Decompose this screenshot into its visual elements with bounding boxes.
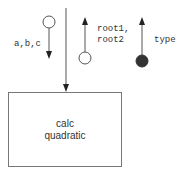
- couple-label-type: type: [154, 35, 176, 45]
- arrow-down-icon: [46, 51, 52, 59]
- couple-label-root2: root2: [97, 35, 124, 45]
- data-couple-input: a,b,c: [14, 16, 55, 59]
- module-box-calc-quadratic: calc quadratic: [9, 93, 122, 167]
- module-label-line1: calc: [56, 118, 74, 129]
- control-couple-type: type: [136, 17, 176, 67]
- invocation-connector: [63, 8, 69, 92]
- module-label-line2: quadratic: [44, 130, 85, 141]
- data-couple-roots: root1, root2: [79, 17, 129, 64]
- structure-chart-diagram: a,b,c root1, root2 type calc quadratic: [0, 0, 186, 175]
- arrow-down-icon: [63, 84, 69, 92]
- arrow-up-icon: [139, 17, 145, 25]
- open-circle-icon: [79, 52, 91, 64]
- open-circle-icon: [43, 16, 55, 28]
- filled-circle-icon: [136, 55, 148, 67]
- arrow-up-icon: [82, 17, 88, 25]
- couple-label-root1: root1,: [97, 24, 129, 34]
- couple-label-abc: a,b,c: [14, 39, 41, 49]
